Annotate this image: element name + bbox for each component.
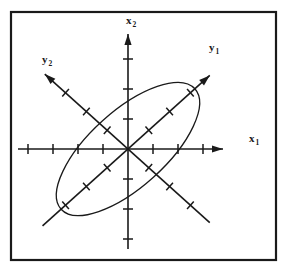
label-x1-subscript: 1 [256,138,260,147]
label-y1-base: y [209,41,215,53]
figure-container: x 1 x 2 y 1 y 2 [0,0,290,275]
label-y2-base: y [42,53,48,65]
label-x2-base: x [126,14,132,26]
label-y2-subscript: 2 [49,59,53,68]
canvas-background [0,0,290,275]
diagram-canvas: x 1 x 2 y 1 y 2 [0,0,290,275]
label-x1-base: x [249,132,255,144]
label-y1-subscript: 1 [216,47,220,56]
label-x2-subscript: 2 [133,20,137,29]
